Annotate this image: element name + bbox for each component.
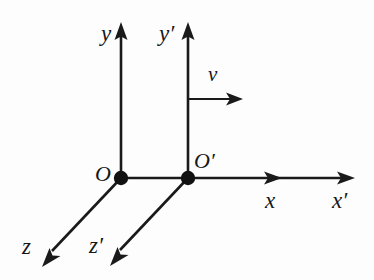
z-axis-label: z (22, 235, 31, 258)
origin-dot-O (114, 171, 128, 185)
relativity-frames-diagram: y y′ x x′ z z′ O O′ v (0, 0, 374, 280)
z-axis-line (52, 178, 121, 251)
x-prime-axis-label: x′ (332, 189, 347, 212)
origin-label-O-prime: O′ (194, 150, 215, 172)
z-prime-axis-arrowhead (110, 247, 129, 266)
z-axis-arrowhead (42, 248, 61, 267)
z-prime-axis-label: z′ (89, 234, 103, 257)
y-prime-axis-label: y′ (159, 22, 174, 45)
velocity-label: v (208, 64, 217, 85)
z-prime-axis-line (120, 178, 188, 250)
y-axis-label: y (101, 22, 111, 45)
origin-label-O: O (95, 163, 111, 185)
x-axis-label: x (265, 189, 275, 212)
diagram-canvas (0, 0, 374, 280)
